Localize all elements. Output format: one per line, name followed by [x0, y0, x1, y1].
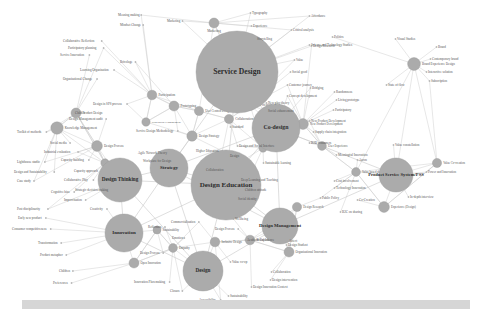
- graph-leaf-label: Design intervention: [272, 278, 298, 282]
- graph-node-inclusive-design[interactable]: [210, 237, 220, 247]
- graph-leaf-label: Design: [230, 154, 239, 158]
- graph-node-label: Sustainability: [163, 228, 180, 232]
- graph-leaf-label: Capacity building: [61, 158, 84, 162]
- graph-leaf-label: Subscription: [431, 79, 448, 83]
- leaf-node-dot: [89, 54, 91, 56]
- graph-node-design-strategy[interactable]: [187, 131, 197, 141]
- graph-node-label: Design Strategy: [199, 134, 220, 138]
- leaf-node-dot: [60, 242, 62, 244]
- graph-node-label: Inclusive Design: [221, 240, 242, 244]
- leaf-node-dot: [88, 159, 90, 161]
- graph-node-label: Participation: [158, 93, 175, 97]
- graph-leaf-label: Wellbeing: [235, 217, 248, 221]
- graph-leaf-label: Typography: [252, 11, 268, 15]
- graph-edge: [73, 263, 134, 271]
- graph-leaf-label: Social good: [292, 70, 308, 74]
- graph-node-design-research[interactable]: [292, 202, 301, 211]
- graph-leaf-label: Toolkit of methods: [17, 130, 42, 134]
- leaf-node-dot: [106, 208, 108, 210]
- graph-node-brand-experience[interactable]: [408, 58, 421, 71]
- graph-leaf-label: Workplace for Design: [143, 159, 171, 163]
- graph-node-open-innovation[interactable]: [129, 258, 139, 268]
- graph-node-marketing[interactable]: [209, 18, 219, 28]
- graph-leaf-label: New play theory: [268, 101, 290, 105]
- graph-leaf-label: New Product Development: [311, 119, 346, 123]
- graph-leaf-label: Product metaphor: [40, 253, 64, 257]
- graph-leaf-label: Social identity: [238, 197, 257, 201]
- graph-node-knowledge-management[interactable]: [51, 122, 63, 134]
- graph-node-stakeholder-engagement[interactable]: [142, 118, 150, 126]
- graph-leaf-label: Bridging: [312, 86, 324, 90]
- graph-leaf-label: Closure: [170, 289, 181, 293]
- graph-leaf-label: Interactive solution: [428, 70, 453, 74]
- graph-leaf-label: Cost involvement: [336, 179, 359, 183]
- graph-node-organisational-innov[interactable]: [284, 247, 294, 257]
- graph-leaf-label: Affordance: [311, 14, 326, 18]
- graph-leaf-label: Meaningful Innovation: [338, 153, 368, 157]
- leaf-node-dot: [45, 217, 47, 219]
- graph-leaf-label: Learning Organisation: [80, 68, 109, 72]
- graph-leaf-label: Design Process: [215, 227, 235, 231]
- graph-edge: [76, 55, 89, 113]
- graph-node-value-based-design[interactable]: [352, 168, 361, 177]
- graph-leaf-label: Collaboration: [206, 168, 224, 172]
- graph-node-label: Experience (Design): [391, 205, 416, 209]
- graph-leaf-label: Living prototype: [338, 98, 360, 102]
- graph-edge: [322, 146, 356, 172]
- graph-edge: [102, 41, 152, 95]
- leaf-node-dot: [69, 142, 71, 144]
- leaf-node-dot: [44, 161, 46, 163]
- graph-leaf-label: Deep Learning and Teaching: [241, 178, 278, 182]
- graph-leaf-label: B2B consumers: [311, 141, 332, 145]
- graph-leaf-label: Collaboration: [273, 270, 291, 274]
- graph-leaf-label: Aesthetic Experience: [247, 238, 275, 242]
- graph-leaf-label: Consumer competitiveness: [12, 227, 47, 231]
- graph-leaf-label: Post disciplinarity: [17, 207, 41, 211]
- graph-leaf-label: Strategic decision making: [75, 188, 109, 192]
- graph-leaf-label: Brand: [438, 45, 446, 49]
- graph-leaf-label: Lighthouse studio: [17, 160, 40, 164]
- leaf-node-dot: [135, 61, 137, 63]
- graph-node-empathy[interactable]: [169, 244, 178, 253]
- graph-node-participation[interactable]: [147, 90, 157, 100]
- leaf-node-dot: [113, 69, 115, 71]
- graph-hub-label: Co-design: [264, 124, 290, 130]
- graph-node-value-co-creation[interactable]: [432, 158, 441, 167]
- graph-leaf-label: Transformation: [38, 241, 58, 245]
- leaf-node-dot: [50, 228, 52, 230]
- graph-leaf-label: Visual Studies: [397, 37, 416, 41]
- graph-edge: [76, 79, 97, 113]
- graph-node-label: Value Co-creation: [443, 161, 465, 165]
- graph-node-user-centred-design[interactable]: [194, 106, 203, 115]
- graph-node-label: Collaboration: [235, 117, 253, 121]
- graph-edge: [72, 263, 134, 283]
- graph-edge: [170, 248, 173, 282]
- graph-leaf-label: B2C on sharing: [342, 210, 362, 214]
- graph-leaf-label: Value co-op: [232, 260, 248, 264]
- graph-leaf-label: Standard: [232, 125, 244, 129]
- graph-leaf-label: Agile Network Theory: [138, 151, 167, 155]
- graph-node-label: Design Research: [303, 205, 324, 209]
- graph-edge: [333, 37, 415, 64]
- graph-node-collaboration[interactable]: [224, 114, 233, 123]
- graph-node-experience-design[interactable]: [379, 202, 390, 213]
- graph-node-prototyping[interactable]: [169, 101, 179, 111]
- graph-edge: [135, 62, 174, 106]
- graph-leaf-label: Science and Technology Studies: [311, 43, 353, 47]
- graph-node-label: Organisational Innovation: [296, 250, 328, 254]
- graph-node-design-process[interactable]: [92, 141, 103, 152]
- leaf-node-dot: [93, 179, 95, 181]
- graph-leaf-label: Innovation Placemaking: [134, 280, 165, 284]
- graph-leaf-label: Design and Sustainability: [14, 170, 47, 174]
- leaf-node-dot: [140, 14, 142, 16]
- graph-node-label: Design Process: [104, 144, 124, 148]
- graph-leaf-label: Design in SPS process: [93, 102, 123, 106]
- graph-leaf-label: Concept development: [289, 94, 317, 98]
- graph-hub-label: Innovation: [112, 230, 136, 235]
- graph-canvas: MarketingCo-creationCollaborationPartici…: [0, 0, 492, 315]
- graph-leaf-label: Co-Creation: [359, 198, 375, 202]
- graph-leaf-label: Children attitude: [245, 188, 267, 192]
- graph-hub-label: Service Design: [213, 67, 261, 76]
- graph-hub-label: Strategy: [160, 165, 179, 170]
- leaf-node-dot: [85, 199, 87, 201]
